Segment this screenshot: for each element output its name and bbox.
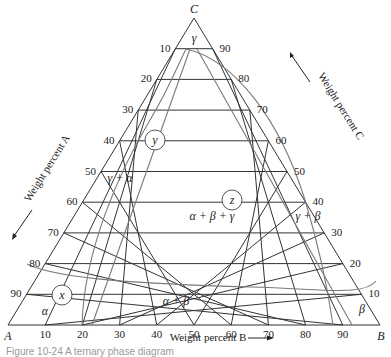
tick-b-80: 80: [300, 328, 312, 340]
figure-caption: Figure 10-24 A ternary phase diagram: [6, 346, 174, 357]
tick-b-90: 90: [337, 328, 349, 340]
triangular-grid: [8, 18, 380, 325]
arrow-a: [14, 210, 32, 236]
tick-c-70: 70: [257, 103, 269, 115]
tick-c-10: 10: [368, 287, 380, 299]
tick-a-80: 80: [29, 257, 41, 269]
tick-b-30: 30: [114, 328, 126, 340]
arrow-a-head: [12, 233, 17, 240]
tick-a-30: 30: [122, 103, 134, 115]
tick-c-20: 20: [350, 257, 362, 269]
tick-a-40: 40: [104, 134, 116, 146]
tick-b-10: 10: [40, 328, 52, 340]
arrow-c-head: [290, 52, 294, 58]
tick-c-30: 30: [331, 226, 343, 238]
phase-label-gamma: γ: [192, 31, 197, 45]
point-y: y: [145, 130, 165, 150]
tick-a-70: 70: [48, 226, 60, 238]
vertex-b-label: B: [377, 329, 385, 343]
tick-c-60: 60: [275, 134, 287, 146]
point-x-label: x: [58, 288, 65, 302]
tick-a-60: 60: [66, 195, 78, 207]
tick-a-10: 10: [159, 42, 171, 54]
vertex-c-label: C: [190, 2, 199, 16]
tick-a-90: 90: [11, 287, 23, 299]
phase-label-gamma-alpha: γ + α: [107, 171, 133, 185]
arrow-c: [292, 56, 310, 82]
phase-label-gamma-beta: γ + β: [296, 209, 321, 223]
tick-b-20: 20: [77, 328, 89, 340]
axis-a-label: Weight percent A: [21, 132, 72, 203]
tick-a-20: 20: [141, 72, 153, 84]
tick-c-90: 90: [220, 42, 232, 54]
point-z: z: [222, 190, 242, 210]
tick-c-80: 80: [238, 72, 250, 84]
axis-title-c: Weight percent C: [316, 70, 367, 141]
tick-b-40: 40: [151, 328, 163, 340]
point-z-label: z: [229, 193, 235, 207]
tick-a-50: 50: [85, 165, 97, 177]
phase-label-beta: β: [358, 302, 365, 316]
point-x: x: [52, 285, 72, 305]
axis-title-a: Weight percent A: [21, 132, 72, 203]
gridline-a-90: [213, 49, 343, 325]
phase-label-alpha: α: [42, 304, 49, 318]
phase-label-alpha-beta: α + β: [163, 294, 189, 308]
axis-c-label: Weight percent C: [316, 70, 367, 141]
tick-c-40: 40: [313, 195, 325, 207]
tick-c-50: 50: [294, 165, 306, 177]
point-y-label: y: [151, 133, 158, 147]
phase-label-alpha-beta-gamma: α + β + γ: [189, 209, 234, 223]
vertex-a-label: A: [3, 329, 12, 343]
axis-b-label: Weight percent B: [170, 331, 247, 343]
